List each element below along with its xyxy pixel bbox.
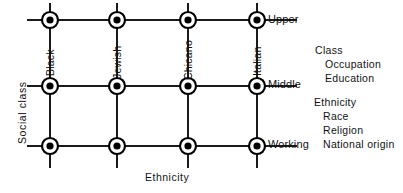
- grid-node: [180, 138, 196, 154]
- grid-node: [249, 12, 265, 28]
- column-label-black: Black: [45, 49, 56, 76]
- legend-item-education: Education: [325, 73, 374, 84]
- concept-diagram-figure: Social class Black Jewish Chicano Italia…: [0, 0, 403, 193]
- legend-item-national-origin: National origin: [323, 139, 395, 150]
- legend-item-occupation: Occupation: [325, 59, 381, 70]
- grid-node: [180, 12, 196, 28]
- node-dot: [113, 16, 120, 23]
- node-dot: [253, 16, 260, 23]
- legend-item-religion: Religion: [323, 125, 363, 136]
- legend-item-race: Race: [323, 111, 349, 122]
- node-dot: [184, 142, 191, 149]
- column-label-jewish: Jewish: [112, 46, 123, 79]
- node-dot: [46, 16, 53, 23]
- node-dot: [113, 142, 120, 149]
- legend-heading-ethnicity: Ethnicity: [314, 97, 356, 108]
- node-dot: [253, 82, 260, 89]
- grid-node: [109, 12, 125, 28]
- grid-node: [42, 12, 58, 28]
- grid-node: [109, 138, 125, 154]
- grid-node: [42, 78, 58, 94]
- node-dot: [184, 82, 191, 89]
- node-dot: [184, 16, 191, 23]
- row-label-working: Working: [268, 139, 309, 150]
- column-label-chicano: Chicano: [183, 40, 194, 80]
- node-dot: [253, 142, 260, 149]
- row-label-upper: Upper: [268, 14, 298, 25]
- node-dot: [46, 142, 53, 149]
- grid-node: [109, 78, 125, 94]
- column-label-italian: Italian: [252, 47, 263, 76]
- legend-heading-class: Class: [315, 45, 343, 56]
- node-dot: [46, 82, 53, 89]
- grid-node: [42, 138, 58, 154]
- row-label-middle: Middle: [268, 79, 301, 90]
- grid-nodes: [42, 12, 265, 154]
- node-dot: [113, 82, 120, 89]
- x-axis-title: Ethnicity: [145, 172, 189, 183]
- grid-node: [249, 78, 265, 94]
- grid-node: [180, 78, 196, 94]
- grid-node: [249, 138, 265, 154]
- y-axis-title: Social class: [17, 81, 28, 144]
